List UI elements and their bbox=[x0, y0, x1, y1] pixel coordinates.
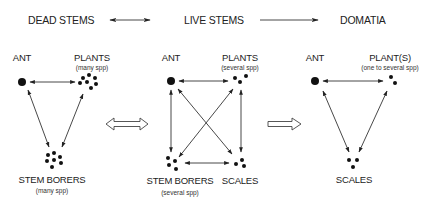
borers-sublabel: (several spp) bbox=[161, 189, 199, 197]
plants-sublabel: (one to several spp) bbox=[361, 64, 418, 72]
ant-label: ANT bbox=[13, 52, 32, 63]
borers-label: STEM BORERS bbox=[147, 175, 214, 186]
borers-cluster bbox=[45, 151, 63, 169]
edge-plants-borers bbox=[62, 94, 83, 147]
ant-node bbox=[311, 77, 319, 85]
scales-label: SCALES bbox=[222, 175, 258, 186]
scales-cluster bbox=[347, 158, 359, 169]
scales-cluster bbox=[234, 158, 246, 168]
plants-label: PLANTS bbox=[74, 52, 110, 63]
plants-sublabel: (many spp) bbox=[76, 64, 109, 72]
stage-dead-stems: DEAD STEMS bbox=[28, 14, 94, 26]
edge-ant-scales bbox=[178, 89, 232, 154]
plants-sublabel: (several spp) bbox=[221, 64, 259, 72]
scales-label: SCALES bbox=[336, 174, 372, 185]
ant-node bbox=[167, 77, 175, 85]
plants-cluster bbox=[389, 75, 397, 85]
ant-label: ANT bbox=[162, 52, 181, 63]
stage-live-stems: LIVE STEMS bbox=[184, 14, 244, 26]
ant-label: ANT bbox=[306, 52, 325, 63]
borers-sublabel: (many spp) bbox=[36, 187, 69, 195]
ant-node bbox=[18, 78, 26, 86]
panel-live-stems: ANT PLANTS (several spp) STEM BORERS (se… bbox=[147, 52, 259, 197]
edge-plants-scales bbox=[359, 91, 387, 152]
plants-label: PLANT(S) bbox=[369, 52, 411, 63]
borers-label: STEM BORERS bbox=[19, 174, 86, 185]
borers-cluster bbox=[166, 156, 178, 171]
plants-label: PLANTS bbox=[222, 52, 258, 63]
edge-plants-borers bbox=[179, 89, 233, 157]
panel-domatia: ANT PLANT(S) (one to several spp) SCALES bbox=[306, 52, 419, 185]
edge-ant-scales bbox=[323, 91, 349, 152]
hollow-right-arrow bbox=[268, 118, 301, 130]
stage-domatia: DOMATIA bbox=[340, 14, 386, 26]
edge-ant-borers bbox=[28, 90, 49, 147]
ant-plant-diagram: DEAD STEMS LIVE STEMS DOMATIA ANT PLANTS… bbox=[0, 0, 433, 203]
plants-cluster bbox=[233, 74, 248, 84]
panel-dead-stems: ANT PLANTS (many spp) STEM BORERS (many … bbox=[13, 52, 110, 195]
plants-cluster bbox=[78, 73, 98, 90]
hollow-double-arrow bbox=[106, 118, 148, 130]
